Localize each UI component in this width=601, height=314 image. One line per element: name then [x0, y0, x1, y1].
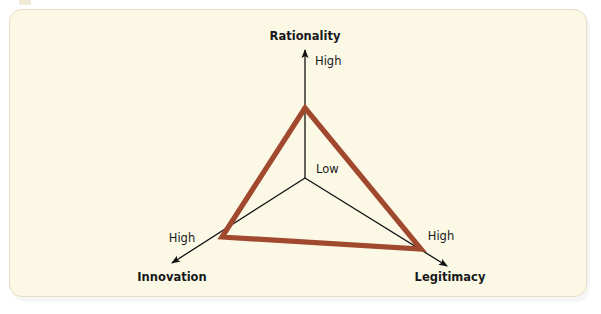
axis-title-innovation: Innovation — [137, 270, 206, 284]
series-polygon — [222, 108, 421, 249]
axis-title-legitimacy: Legitimacy — [415, 270, 486, 284]
tick-low-center: Low — [316, 162, 339, 176]
tick-high-innovation: High — [169, 231, 195, 245]
axis-line-innovation — [172, 178, 305, 263]
tick-high-rationality: High — [315, 54, 341, 68]
chart-labels: Rationality High Low High Innovation Hig… — [137, 29, 486, 284]
tick-high-legitimacy: High — [428, 229, 454, 243]
radar-chart: Rationality High Low High Innovation Hig… — [0, 0, 601, 314]
series-profile — [222, 108, 421, 249]
figure-root: Rationality High Low High Innovation Hig… — [0, 0, 601, 314]
axis-title-rationality: Rationality — [270, 29, 341, 43]
